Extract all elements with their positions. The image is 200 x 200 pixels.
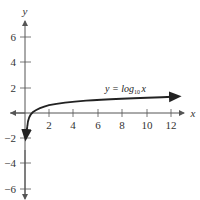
log-graph: 2 4 6 8 10 12 6 4 2 −2 −4 −6 y x y = log…	[0, 0, 200, 200]
x-tick-label: 10	[142, 119, 154, 131]
x-tick-label: 8	[119, 119, 125, 131]
y-tick-label: −4	[4, 157, 16, 169]
y-tick-label: 6	[11, 31, 17, 43]
x-tick-label: 4	[70, 119, 76, 131]
y-tick-label: −2	[4, 132, 16, 144]
x-tick-label: 12	[166, 119, 177, 131]
equation-label: y = log10x	[104, 83, 146, 95]
y-tick-label: 2	[11, 82, 17, 94]
x-axis-label: x	[190, 107, 196, 119]
curve-lower	[26, 126, 28, 138]
x-tick-label: 2	[46, 119, 52, 131]
y-axis-label: y	[22, 5, 28, 17]
y-tick-label: 4	[11, 56, 17, 68]
y-tick-label: −6	[4, 183, 16, 195]
x-tick-label: 6	[95, 119, 101, 131]
